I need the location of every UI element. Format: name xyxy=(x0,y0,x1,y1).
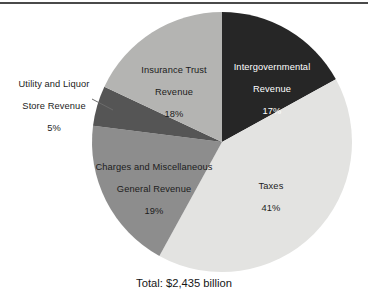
chart-plot-area: Intergovernmental Revenue 17% Taxes 41% … xyxy=(0,0,368,301)
slice-label-line1: Utility and Liquor xyxy=(2,79,106,90)
slice-label-line2: Revenue xyxy=(216,84,328,95)
slice-label-utility-and-liquor-store-revenue: Utility and Liquor Store Revenue 5% xyxy=(2,68,106,145)
slice-label-insurance-trust-revenue: Insurance Trust Revenue 18% xyxy=(126,54,222,131)
slice-label-intergovernmental-revenue: Intergovernmental Revenue 17% xyxy=(216,51,328,128)
slice-label-percent: 19% xyxy=(86,206,222,217)
slice-label-percent: 41% xyxy=(226,203,316,214)
chart-total-caption: Total: $2,435 billion xyxy=(0,277,368,289)
slice-label-line2: Revenue xyxy=(126,87,222,98)
slice-label-line2: General Revenue xyxy=(86,184,222,195)
slice-label-taxes: Taxes 41% xyxy=(226,170,316,225)
slice-label-percent: 18% xyxy=(126,109,222,120)
slice-label-line1: Charges and Miscellaneous xyxy=(86,162,222,173)
slice-label-percent: 17% xyxy=(216,106,328,117)
slice-label-line1: Taxes xyxy=(226,181,316,192)
slice-label-charges-and-miscellaneous-general-revenue: Charges and Miscellaneous General Revenu… xyxy=(86,151,222,228)
slice-label-line1: Intergovernmental xyxy=(216,62,328,73)
slice-label-percent: 5% xyxy=(2,123,106,134)
slice-label-line2: Store Revenue xyxy=(2,101,106,112)
pie-chart-figure: Intergovernmental Revenue 17% Taxes 41% … xyxy=(0,0,368,301)
slice-label-line1: Insurance Trust xyxy=(126,65,222,76)
